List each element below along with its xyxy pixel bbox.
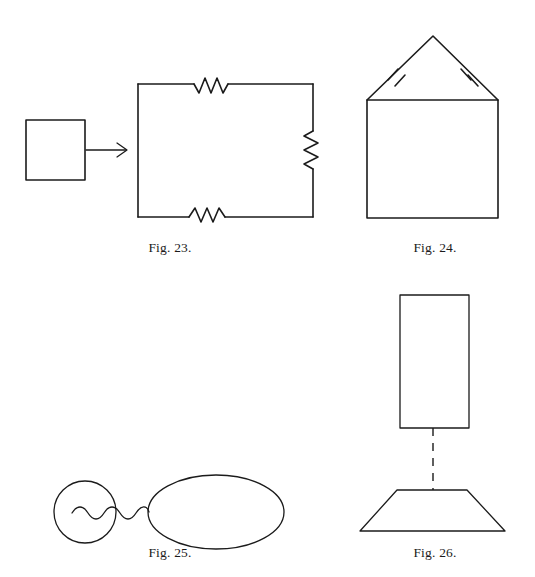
large-ellipse xyxy=(148,475,284,549)
figure-24-group xyxy=(367,36,498,218)
caption-fig-25: Fig. 25. xyxy=(110,545,230,561)
figure-23-group xyxy=(26,78,318,222)
large-rectangle xyxy=(138,78,318,222)
zigzag-bottom xyxy=(189,208,225,222)
figures-svg xyxy=(0,0,535,577)
roof-triangle xyxy=(367,36,498,100)
small-square xyxy=(26,120,85,180)
arrow-right-icon xyxy=(86,143,127,157)
tick-mark-left xyxy=(388,69,405,86)
caption-fig-23: Fig. 23. xyxy=(110,240,230,256)
caption-fig-24: Fig. 24. xyxy=(375,240,495,256)
house-square xyxy=(367,100,498,218)
caption-fig-26: Fig. 26. xyxy=(375,545,495,561)
zigzag-top xyxy=(194,78,228,93)
wavy-connector xyxy=(72,507,149,519)
figure-sheet: Fig. 23. Fig. 24. Fig. 25. Fig. 26. xyxy=(0,0,535,577)
figure-25-group xyxy=(54,475,284,549)
figure-26-group xyxy=(360,295,505,531)
small-circle xyxy=(54,481,116,543)
zigzag-right xyxy=(304,131,318,169)
upper-rectangle xyxy=(400,295,469,428)
lower-trapezoid xyxy=(360,490,505,531)
